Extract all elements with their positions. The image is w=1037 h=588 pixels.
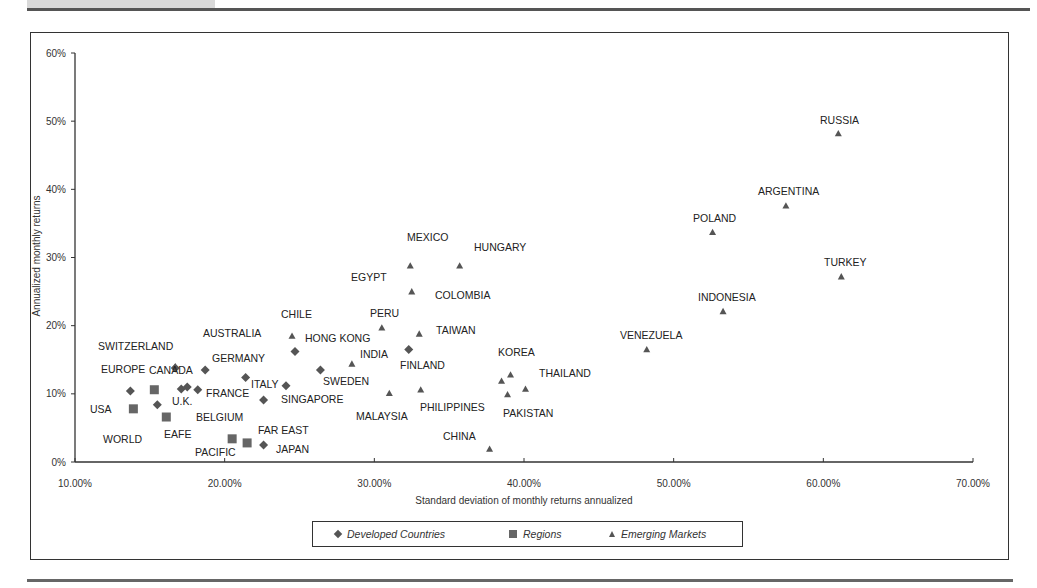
point-label: JAPAN <box>276 443 309 455</box>
triangle-marker <box>386 390 393 396</box>
x-tick-label: 60.00% <box>806 478 840 489</box>
y-tick-label: 40% <box>46 184 66 195</box>
point-label: CHINA <box>443 430 476 442</box>
square-marker <box>129 404 138 413</box>
triangle-marker <box>835 130 842 136</box>
x-tick-label: 50.00% <box>657 478 691 489</box>
point-label: HONG KONG <box>305 332 370 344</box>
triangle-marker <box>456 262 463 268</box>
point-label: CHILE <box>281 308 312 320</box>
legend-item-emerging: Emerging Markets <box>609 528 706 540</box>
point-label: EGYPT <box>351 271 387 283</box>
triangle-marker <box>782 202 789 208</box>
triangle-icon <box>609 531 615 537</box>
triangle-marker <box>522 386 529 392</box>
square-marker <box>162 413 171 422</box>
triangle-marker <box>709 229 716 235</box>
point-label: SWITZERLAND <box>98 340 174 352</box>
bottom-rule-divider <box>27 579 1013 582</box>
square-marker <box>228 434 237 443</box>
diamond-marker <box>193 385 202 394</box>
diamond-marker <box>126 387 135 396</box>
x-tick-label: 20.00% <box>208 478 242 489</box>
triangle-marker <box>720 308 727 314</box>
point-label: SWEDEN <box>323 375 369 387</box>
triangle-marker <box>289 332 296 338</box>
point-label: PHILIPPINES <box>420 401 485 413</box>
point-label: BELGIUM <box>196 411 243 423</box>
triangle-marker <box>507 371 514 377</box>
point-label: MEXICO <box>407 231 448 243</box>
diamond-marker <box>153 400 162 409</box>
legend-item-regions: Regions <box>509 528 562 540</box>
y-tick-label: 60% <box>46 48 66 59</box>
point-label: GERMANY <box>212 352 265 364</box>
triangle-marker <box>643 346 650 352</box>
chart-legend: Developed Countries Regions Emerging Mar… <box>312 521 743 547</box>
point-label: USA <box>90 403 112 415</box>
square-marker <box>243 438 252 447</box>
y-tick-label: 30% <box>46 252 66 263</box>
triangle-marker <box>504 391 511 397</box>
diamond-marker <box>259 395 268 404</box>
triangle-marker <box>417 386 424 392</box>
point-label: U.K. <box>172 395 192 407</box>
point-label: PAKISTAN <box>503 407 553 419</box>
x-tick-label: 40.00% <box>507 478 541 489</box>
triangle-marker <box>416 330 423 336</box>
point-label: PERU <box>370 307 399 319</box>
diamond-marker <box>201 365 210 374</box>
y-axis-title: Annualized monthly returns <box>31 195 42 316</box>
triangle-marker <box>838 273 845 279</box>
y-tick-label: 20% <box>46 320 66 331</box>
legend-label: Emerging Markets <box>621 528 706 540</box>
x-tick-label: 30.00% <box>357 478 391 489</box>
point-label: TAIWAN <box>436 324 476 336</box>
y-tick-label: 10% <box>46 388 66 399</box>
point-label: CANADA <box>149 364 193 376</box>
diamond-marker <box>291 347 300 356</box>
y-tick-label: 50% <box>46 116 66 127</box>
triangle-marker <box>378 324 385 330</box>
triangle-marker <box>407 262 414 268</box>
diamond-marker <box>404 345 413 354</box>
legend-label: Regions <box>523 528 562 540</box>
diamond-marker <box>259 440 268 449</box>
point-label: TURKEY <box>824 256 867 268</box>
point-label: RUSSIA <box>820 114 859 126</box>
point-label: INDONESIA <box>698 291 756 303</box>
point-labels: RUSSIAARGENTINAPOLANDTURKEYINDONESIAVENE… <box>90 114 867 458</box>
point-label: ITALY <box>251 378 279 390</box>
scatter-plot: 10.00%20.00%30.00%40.00%50.00%60.00%70.0… <box>0 0 1037 588</box>
diamond-marker <box>282 381 291 390</box>
y-tick-label: 0% <box>52 457 67 468</box>
point-label: POLAND <box>693 212 737 224</box>
diamond-marker <box>241 373 250 382</box>
point-label: FINLAND <box>400 359 445 371</box>
square-marker <box>150 385 159 394</box>
triangle-marker <box>348 360 355 366</box>
point-label: KOREA <box>498 346 535 358</box>
square-icon <box>509 530 517 538</box>
point-label: FAR EAST <box>258 424 309 436</box>
point-label: EAFE <box>164 428 191 440</box>
point-label: FRANCE <box>206 387 249 399</box>
diamond-icon <box>334 530 342 538</box>
legend-label: Developed Countries <box>347 528 445 540</box>
x-tick-label: 10.00% <box>58 478 92 489</box>
point-label: HUNGARY <box>474 241 526 253</box>
point-label: COLOMBIA <box>435 289 490 301</box>
triangle-marker <box>486 446 493 452</box>
point-label: MALAYSIA <box>356 410 408 422</box>
triangle-marker <box>498 377 505 383</box>
point-label: WORLD <box>103 433 143 445</box>
point-label: INDIA <box>360 348 388 360</box>
point-label: ARGENTINA <box>758 185 819 197</box>
x-tick-label: 70.00% <box>956 478 990 489</box>
point-label: AUSTRALIA <box>203 327 261 339</box>
point-label: PACIFIC <box>195 446 236 458</box>
diamond-marker <box>316 365 325 374</box>
point-label: EUROPE <box>101 363 145 375</box>
point-label: SINGAPORE <box>281 393 343 405</box>
x-axis-title: Standard deviation of monthly returns an… <box>415 495 632 506</box>
